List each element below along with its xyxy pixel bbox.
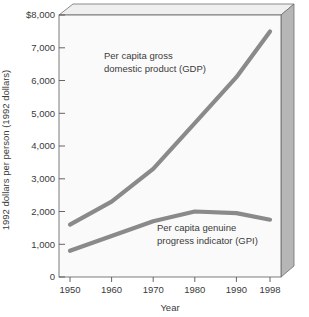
y-tick-label-1000: 1,000: [31, 239, 55, 250]
x-tick-label-1960: 1960: [101, 284, 122, 295]
y-tick-label-4000: 4,000: [31, 140, 55, 151]
x-tick-label-1990: 1990: [226, 284, 247, 295]
chart-right-face: [281, 4, 294, 277]
annotation-gdp-line1: Per capita gross: [104, 50, 173, 61]
y-tick-label-8000: $8,000: [26, 9, 55, 20]
y-tick-label-5000: 5,000: [31, 108, 55, 119]
annotation-gpi-line1: Per capita genuine: [157, 222, 236, 233]
y-tick-label-7000: 7,000: [31, 42, 55, 53]
gdp-gpi-line-chart: 0 1,000 2,000 3,000 4,000 5,000 6,000 7,…: [0, 0, 309, 317]
x-tick-label-1950: 1950: [59, 284, 80, 295]
y-tick-label-0: 0: [50, 271, 55, 282]
x-tick-label-1980: 1980: [184, 284, 205, 295]
y-tick-label-2000: 2,000: [31, 206, 55, 217]
chart-top-face: [59, 4, 294, 15]
y-tick-label-6000: 6,000: [31, 75, 55, 86]
y-axis-title: 1992 dollars per person (1992 dollars): [0, 70, 11, 231]
x-axis-ticks: [70, 277, 270, 282]
y-axis-tick-labels: 0 1,000 2,000 3,000 4,000 5,000 6,000 7,…: [26, 9, 55, 282]
chart-container: 0 1,000 2,000 3,000 4,000 5,000 6,000 7,…: [0, 0, 309, 317]
annotation-gpi-line2: progress indicator (GPI): [157, 235, 258, 246]
x-tick-label-1970: 1970: [143, 284, 164, 295]
annotation-gdp-line2: domestic product (GDP): [104, 63, 206, 74]
y-tick-label-3000: 3,000: [31, 173, 55, 184]
x-tick-label-1998: 1998: [259, 284, 280, 295]
x-axis-title: Year: [160, 302, 179, 313]
x-axis-tick-labels: 1950 1960 1970 1980 1990 1998: [59, 284, 280, 295]
